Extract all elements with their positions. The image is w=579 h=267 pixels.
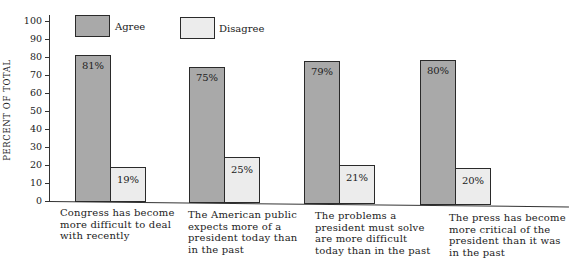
y-tick [45,57,50,58]
agree-bar: 79% [304,61,340,204]
category-label-line: president must solve [315,222,445,234]
y-tick [45,39,50,40]
agree-bar: 81% [75,55,111,202]
y-tick-label: 80 [14,52,42,62]
legend-label-agree: Agree [115,21,145,32]
category-label: The problems apresident must solveare mo… [315,210,445,256]
y-tick-label: 40 [14,124,42,134]
disagree-bar: 25% [224,157,260,203]
y-tick-label: 0 [14,196,42,206]
disagree-bar: 20% [455,168,491,205]
y-tick [45,21,50,22]
category-label-line: more difficult to deal [60,219,190,231]
y-tick [45,93,50,94]
bar-chart: PERCENT OF TOTAL 0102030405060708090100 … [0,0,579,267]
category-label-line: The American public [188,209,318,221]
category-label-line: expects more of a [188,221,318,233]
y-tick-label: 100 [14,16,42,26]
category-label: The press has becomemore critical of the… [449,212,579,258]
category-label: Congress has becomemore difficult to dea… [60,207,190,242]
category-label-line: are more difficult [315,233,445,245]
disagree-bar: 19% [110,167,146,202]
y-tick-label: 50 [14,106,42,116]
y-tick [45,111,50,112]
category-label-line: with recently [60,230,190,242]
y-tick [45,201,50,202]
legend-label-disagree: Disagree [219,23,264,34]
category-label-line: president today than [188,232,318,244]
bar-value-label: 25% [225,164,259,175]
y-tick [45,183,50,184]
y-tick-label: 70 [14,70,42,80]
y-tick-label: 90 [14,34,42,44]
y-tick-label: 10 [14,178,42,188]
category-label-line: in the past [449,247,579,259]
category-label: The American publicexpects more of apres… [188,209,318,255]
bar-value-label: 81% [76,60,110,71]
category-label-line: today than in the past [315,245,445,257]
y-tick-label: 60 [14,88,42,98]
legend-swatch-agree [75,15,110,37]
agree-bar: 75% [189,67,225,203]
category-label-line: president than it was [449,235,579,247]
y-tick [45,75,50,76]
category-label-line: Congress has become [60,207,190,219]
legend-swatch-disagree [180,17,215,39]
y-tick [45,147,50,148]
bar-value-label: 21% [340,172,374,183]
category-label-line: The press has become [449,212,579,224]
bar-value-label: 79% [305,66,339,77]
bar-value-label: 20% [456,175,490,186]
agree-bar: 80% [420,60,456,205]
bar-value-label: 19% [111,174,145,185]
y-tick [45,129,50,130]
category-label-line: more critical of the [449,224,579,236]
bar-value-label: 75% [190,72,224,83]
y-axis-line [49,15,50,202]
disagree-bar: 21% [339,165,375,204]
y-tick-label: 20 [14,160,42,170]
category-label-line: The problems a [315,210,445,222]
bar-value-label: 80% [421,65,455,76]
y-tick-label: 30 [14,142,42,152]
y-tick [45,165,50,166]
category-label-line: in the past [188,244,318,256]
